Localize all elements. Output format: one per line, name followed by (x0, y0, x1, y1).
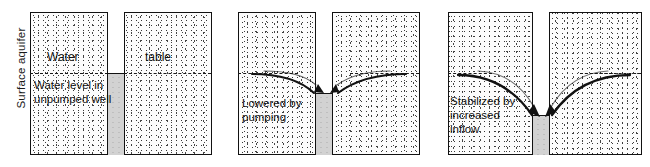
well-casing-right (124, 12, 125, 155)
panel-unpumped: Water table Water level in unpumped well (30, 12, 211, 155)
well-water-surface (315, 93, 333, 94)
water-table-line-right (124, 73, 211, 74)
well-water-surface (107, 73, 125, 74)
well-water-surface (532, 115, 550, 116)
label-stabilized-by-increased-inflow: Stabilized by increased inflow (450, 94, 515, 136)
label-table: table (145, 50, 171, 64)
aquifer-well-diagram: Surface aquifer Water table Water level … (0, 0, 650, 167)
axis-label-surface-aquifer: Surface aquifer (15, 3, 27, 133)
panel-stabilized: Stabilized by increased inflow (448, 12, 641, 155)
label-water: Water (47, 50, 79, 64)
label-lowered-by-pumping: Lowered by pumping (242, 96, 301, 124)
water-table-line-left (30, 73, 108, 74)
drawdown-cone-curves (238, 12, 419, 155)
sand-stipple-texture (124, 12, 212, 155)
aquifer-block-right (124, 12, 212, 155)
label-water-level-unpumped-well: Water level in unpumped well (34, 78, 111, 106)
panel-pumping: Lowered by pumping (238, 12, 419, 155)
